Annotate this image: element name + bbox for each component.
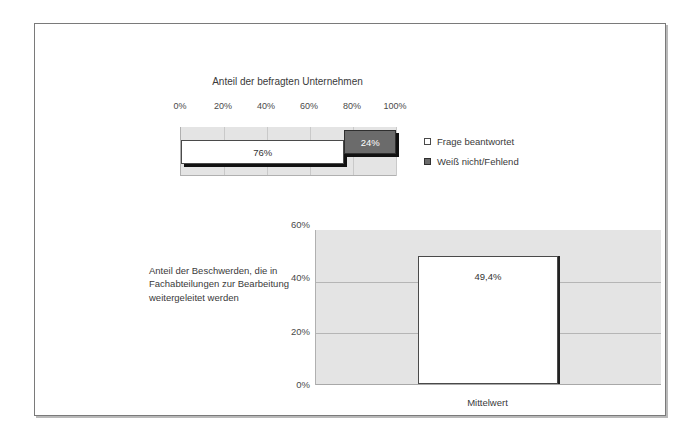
- legend-label-missing: Weiß nicht/Fehlend: [437, 156, 519, 167]
- bar-segment-missing: 24%: [344, 130, 396, 154]
- bar-segment-missing-label: 24%: [345, 137, 395, 148]
- chart-frame: Anteil der befragten Unternehmen 0% 20% …: [34, 23, 666, 416]
- bottom-chart-axis-label: Anteil der Beschwerden, die in Fachabtei…: [149, 264, 291, 304]
- top-chart-x-axis: 0% 20% 40% 60% 80% 100%: [180, 101, 395, 114]
- x-tick-100: 100%: [383, 101, 406, 111]
- bar-mittelwert: 49,4%: [418, 256, 558, 384]
- gridline-vertical: [396, 127, 397, 176]
- top-chart-plot-area: 76% 24%: [180, 127, 396, 176]
- x-tick-60: 60%: [300, 101, 318, 111]
- legend: Frage beantwortet Weiß nicht/Fehlend: [424, 136, 519, 176]
- x-tick-80: 80%: [343, 101, 361, 111]
- axis-baseline: [181, 175, 396, 176]
- legend-item-answered: Frage beantwortet: [424, 136, 519, 147]
- legend-swatch-grey-icon: [424, 158, 431, 165]
- legend-swatch-white-icon: [424, 138, 431, 145]
- bottom-chart-plot-area: 49,4%: [315, 230, 661, 385]
- x-tick-20: 20%: [214, 101, 232, 111]
- y-tick-20: 20%: [291, 325, 310, 336]
- bar-segment-answered-label: 76%: [182, 147, 343, 158]
- y-tick-60: 60%: [291, 219, 310, 230]
- x-tick-0: 0%: [173, 101, 186, 111]
- bar-segment-answered: 76%: [181, 140, 344, 164]
- bottom-chart-category-label: Mittelwert: [315, 397, 660, 408]
- legend-label-answered: Frage beantwortet: [437, 136, 514, 147]
- axis-baseline: [316, 384, 661, 385]
- x-tick-40: 40%: [257, 101, 275, 111]
- y-tick-0: 0%: [296, 379, 310, 390]
- legend-item-missing: Weiß nicht/Fehlend: [424, 156, 519, 167]
- y-tick-40: 40%: [291, 272, 310, 283]
- bar-mittelwert-label: 49,4%: [419, 271, 557, 282]
- top-chart-title: Anteil der befragten Unternehmen: [180, 76, 395, 89]
- bottom-chart-y-axis: 0% 20% 40% 60%: [278, 224, 310, 384]
